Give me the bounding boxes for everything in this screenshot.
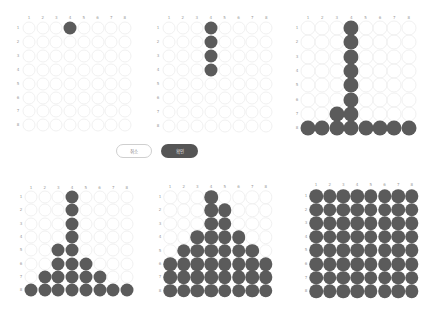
empty-circle[interactable] bbox=[246, 78, 259, 91]
filled-circle[interactable] bbox=[378, 257, 392, 271]
empty-circle[interactable] bbox=[329, 35, 344, 50]
empty-circle[interactable] bbox=[358, 63, 373, 78]
empty-circle[interactable] bbox=[118, 91, 131, 104]
empty-circle[interactable] bbox=[50, 49, 63, 62]
empty-circle[interactable] bbox=[91, 105, 104, 118]
filled-circle[interactable] bbox=[323, 257, 337, 271]
empty-circle[interactable] bbox=[105, 35, 118, 48]
filled-circle[interactable] bbox=[66, 244, 79, 257]
empty-circle[interactable] bbox=[358, 21, 373, 36]
empty-circle[interactable] bbox=[77, 119, 90, 132]
empty-circle[interactable] bbox=[260, 50, 273, 63]
empty-circle[interactable] bbox=[105, 22, 118, 35]
empty-circle[interactable] bbox=[301, 35, 316, 50]
empty-circle[interactable] bbox=[77, 63, 90, 76]
empty-circle[interactable] bbox=[118, 105, 131, 118]
filled-circle[interactable] bbox=[309, 230, 323, 244]
empty-circle[interactable] bbox=[23, 63, 36, 76]
empty-circle[interactable] bbox=[218, 64, 231, 77]
empty-circle[interactable] bbox=[373, 78, 388, 93]
filled-circle[interactable] bbox=[391, 230, 405, 244]
empty-circle[interactable] bbox=[105, 63, 118, 76]
empty-circle[interactable] bbox=[232, 106, 245, 119]
empty-circle[interactable] bbox=[260, 92, 273, 105]
empty-circle[interactable] bbox=[358, 35, 373, 50]
empty-circle[interactable] bbox=[218, 92, 231, 105]
empty-circle[interactable] bbox=[315, 106, 330, 121]
empty-circle[interactable] bbox=[373, 63, 388, 78]
filled-circle[interactable] bbox=[401, 121, 416, 136]
filled-circle[interactable] bbox=[204, 230, 218, 244]
cancel-button[interactable]: 취소 bbox=[116, 144, 152, 158]
empty-circle[interactable] bbox=[36, 119, 49, 132]
empty-circle[interactable] bbox=[38, 244, 51, 257]
empty-circle[interactable] bbox=[93, 230, 106, 243]
filled-circle[interactable] bbox=[191, 230, 205, 244]
empty-circle[interactable] bbox=[77, 22, 90, 35]
empty-circle[interactable] bbox=[50, 105, 63, 118]
empty-circle[interactable] bbox=[105, 119, 118, 132]
filled-circle[interactable] bbox=[405, 230, 419, 244]
empty-circle[interactable] bbox=[120, 230, 133, 243]
filled-circle[interactable] bbox=[405, 216, 419, 230]
empty-circle[interactable] bbox=[190, 92, 203, 105]
filled-circle[interactable] bbox=[378, 189, 392, 203]
empty-circle[interactable] bbox=[191, 190, 205, 204]
filled-circle[interactable] bbox=[344, 63, 359, 78]
empty-circle[interactable] bbox=[246, 64, 259, 77]
empty-circle[interactable] bbox=[36, 77, 49, 90]
empty-circle[interactable] bbox=[118, 119, 131, 132]
empty-circle[interactable] bbox=[387, 21, 402, 36]
empty-circle[interactable] bbox=[77, 35, 90, 48]
empty-circle[interactable] bbox=[107, 217, 120, 230]
empty-circle[interactable] bbox=[301, 92, 316, 107]
filled-circle[interactable] bbox=[177, 271, 191, 285]
empty-circle[interactable] bbox=[52, 230, 65, 243]
empty-circle[interactable] bbox=[260, 78, 273, 91]
empty-circle[interactable] bbox=[23, 77, 36, 90]
filled-circle[interactable] bbox=[232, 257, 246, 271]
empty-circle[interactable] bbox=[91, 35, 104, 48]
filled-circle[interactable] bbox=[66, 257, 79, 270]
empty-circle[interactable] bbox=[387, 35, 402, 50]
filled-circle[interactable] bbox=[315, 121, 330, 136]
filled-circle[interactable] bbox=[191, 244, 205, 258]
empty-circle[interactable] bbox=[387, 106, 402, 121]
empty-circle[interactable] bbox=[77, 91, 90, 104]
filled-circle[interactable] bbox=[309, 244, 323, 258]
empty-circle[interactable] bbox=[93, 191, 106, 204]
empty-circle[interactable] bbox=[176, 92, 189, 105]
empty-circle[interactable] bbox=[176, 120, 189, 133]
empty-circle[interactable] bbox=[387, 49, 402, 64]
empty-circle[interactable] bbox=[218, 36, 231, 49]
filled-circle[interactable] bbox=[350, 257, 364, 271]
empty-circle[interactable] bbox=[163, 106, 176, 119]
empty-circle[interactable] bbox=[79, 204, 92, 217]
filled-circle[interactable] bbox=[391, 203, 405, 217]
filled-circle[interactable] bbox=[337, 216, 351, 230]
filled-circle[interactable] bbox=[301, 121, 316, 136]
empty-circle[interactable] bbox=[232, 92, 245, 105]
filled-circle[interactable] bbox=[259, 271, 273, 285]
empty-circle[interactable] bbox=[91, 49, 104, 62]
empty-circle[interactable] bbox=[401, 63, 416, 78]
filled-circle[interactable] bbox=[177, 257, 191, 271]
filled-circle[interactable] bbox=[323, 230, 337, 244]
empty-circle[interactable] bbox=[218, 190, 232, 204]
filled-circle[interactable] bbox=[218, 217, 232, 231]
empty-circle[interactable] bbox=[373, 35, 388, 50]
empty-circle[interactable] bbox=[301, 78, 316, 93]
empty-circle[interactable] bbox=[401, 21, 416, 36]
filled-circle[interactable] bbox=[52, 244, 65, 257]
empty-circle[interactable] bbox=[52, 204, 65, 217]
empty-circle[interactable] bbox=[120, 244, 133, 257]
empty-circle[interactable] bbox=[232, 204, 246, 218]
empty-circle[interactable] bbox=[38, 204, 51, 217]
filled-circle[interactable] bbox=[38, 284, 51, 297]
filled-circle[interactable] bbox=[350, 271, 364, 285]
empty-circle[interactable] bbox=[259, 217, 273, 231]
filled-circle[interactable] bbox=[245, 257, 259, 271]
filled-circle[interactable] bbox=[329, 106, 344, 121]
filled-circle[interactable] bbox=[350, 189, 364, 203]
empty-circle[interactable] bbox=[190, 22, 203, 35]
